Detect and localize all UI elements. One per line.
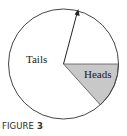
spinner-arrow-shaft: [64, 12, 78, 65]
heads-label: Heads: [84, 68, 112, 80]
figure-caption: FIGURE 3: [2, 121, 43, 131]
spinner-figure: Tails Heads: [0, 0, 127, 136]
tails-label: Tails: [26, 53, 47, 65]
caption-prefix: FIGURE: [2, 121, 34, 131]
caption-number: 3: [37, 121, 43, 131]
